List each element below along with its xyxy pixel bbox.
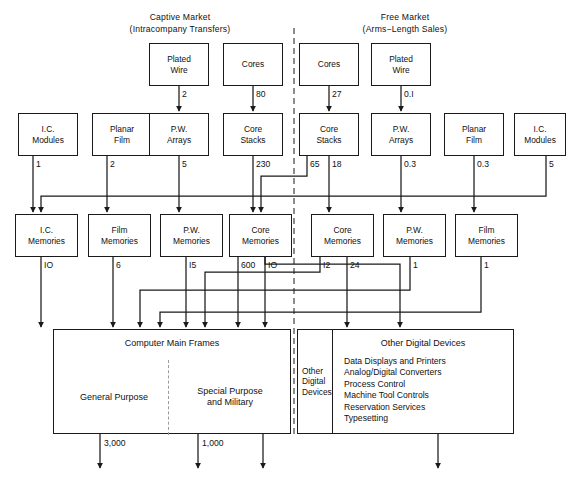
odd-item-0: Data Displays and Printers [344, 356, 446, 367]
odd-item-3: Machine Tool Controls [344, 390, 446, 401]
box-line-2: Arrays [389, 135, 413, 145]
odd-item-4: Reservation Services [344, 402, 446, 413]
box-line-2: Memories [28, 236, 65, 246]
odd-item-1: Analog/Digital Converters [344, 367, 446, 378]
flow-value-core-stacks-free-b: 18 [332, 160, 342, 169]
segment-line-1: General Purpose [60, 392, 168, 403]
box-line-3: Devices [302, 387, 332, 397]
box-cores-captive[interactable]: Cores [223, 43, 283, 86]
box-line-1: Planar [462, 124, 486, 134]
box-pw-memories-free[interactable]: P.W. Memories [383, 214, 446, 257]
flow-value-ic-modules-captive: 1 [36, 160, 41, 169]
free-market-subtitle: (Arms−Length Sales) [300, 24, 510, 36]
box-line-1: Core [320, 124, 338, 134]
box-line-2: Film [114, 135, 130, 145]
box-line-2: Wire [392, 65, 409, 75]
flow-value-film-memories-captive: 6 [116, 261, 121, 270]
box-cores-free[interactable]: Cores [299, 43, 359, 86]
box-ic-modules-captive[interactable]: I.C. Modules [18, 113, 78, 156]
flow-value-plated-wire-free: 0.I [404, 90, 414, 99]
box-line-2: Memories [173, 236, 210, 246]
box-line-1: P.W. [406, 225, 423, 235]
box-plated-wire-captive[interactable]: Plated Wire [149, 43, 209, 86]
other-digital-devices-title: Other Digital Devices [333, 338, 513, 348]
output-value-special-purpose: 1,000 [202, 439, 224, 448]
special-purpose-segment[interactable]: Special Purpose and Military [172, 386, 288, 408]
box-core-memories-captive[interactable]: Core Memories [229, 214, 292, 257]
flow-value-planar-film-captive: 2 [110, 160, 115, 169]
box-line-1: Plated [167, 54, 191, 64]
flow-value-film-memories-free: 1 [484, 261, 489, 270]
box-core-memories-free[interactable]: Core Memories [311, 214, 374, 257]
box-line-2: Modules [32, 135, 64, 145]
box-core-stacks-captive[interactable]: Core Stacks [223, 113, 283, 156]
box-line-2: Stacks [240, 135, 265, 145]
box-line-1: Core [244, 124, 262, 134]
flow-value-core-stacks-captive: 230 [256, 160, 270, 169]
box-planar-film-free[interactable]: Planar Film [444, 113, 504, 156]
box-line-1: Film [112, 225, 128, 235]
segment-line-1: Special Purpose [172, 386, 288, 397]
odd-item-5: Typesetting [344, 413, 446, 424]
free-market-header: Free Market (Arms−Length Sales) [300, 12, 510, 35]
flow-diagram: Captive Market (Intracompany Transfers) … [0, 0, 570, 481]
flow-value-pw-arrays-free: 0.3 [404, 160, 416, 169]
flow-value-core-memories-captive-a: 600 [241, 261, 255, 270]
box-core-stacks-free[interactable]: Core Stacks [299, 113, 359, 156]
box-line-2: Digital [302, 376, 325, 386]
box-line-2: Memories [324, 236, 361, 246]
box-line-2: Memories [396, 236, 433, 246]
flow-value-core-memories-free-a: I2 [323, 261, 330, 270]
flow-value-pw-memories-captive: I5 [189, 261, 196, 270]
box-line-1: Cores [318, 59, 340, 69]
box-line-1: Plated [389, 54, 413, 64]
computer-main-frames-title: Computer Main Frames [54, 338, 290, 348]
flow-value-ic-modules-free: 5 [549, 160, 554, 169]
general-purpose-segment[interactable]: General Purpose [60, 392, 168, 403]
box-line-2: Film [466, 135, 482, 145]
box-line-2: Memories [468, 236, 505, 246]
captive-market-header: Captive Market (Intracompany Transfers) [80, 12, 280, 35]
box-pw-arrays-free[interactable]: P.W. Arrays [371, 113, 431, 156]
box-line-1: I.C. [41, 124, 54, 134]
flow-value-plated-wire-captive: 2 [182, 90, 187, 99]
box-film-memories-free[interactable]: Film Memories [455, 214, 518, 257]
box-ic-memories-captive[interactable]: I.C. Memories [15, 214, 78, 257]
box-line-1: Planar [110, 124, 134, 134]
box-line-1: Other [302, 366, 323, 376]
box-pw-memories-captive[interactable]: P.W. Memories [160, 214, 223, 257]
mainframes-internal-divider [168, 360, 169, 435]
computer-main-frames-box[interactable]: Computer Main Frames General Purpose Spe… [53, 329, 291, 434]
box-planar-film-captive[interactable]: Planar Film [92, 113, 152, 156]
output-value-general-purpose: 3,000 [104, 439, 126, 448]
box-line-1: Cores [242, 59, 264, 69]
flow-value-planar-film-free: 0.3 [477, 160, 489, 169]
box-plated-wire-free[interactable]: Plated Wire [371, 43, 431, 86]
flow-value-pw-arrays-captive: 5 [182, 160, 187, 169]
box-line-1: I.C. [40, 225, 53, 235]
captive-market-subtitle: (Intracompany Transfers) [80, 24, 280, 36]
box-pw-arrays-captive[interactable]: P.W. Arrays [149, 113, 209, 156]
box-ic-modules-free[interactable]: I.C. Modules [514, 113, 566, 156]
flow-value-cores-free: 27 [332, 90, 342, 99]
flow-value-core-memories-free-b: 24 [350, 261, 360, 270]
free-market-title: Free Market [300, 12, 510, 24]
box-line-1: P.W. [183, 225, 200, 235]
box-line-1: Core [333, 225, 351, 235]
box-line-2: Wire [170, 65, 187, 75]
flow-value-cores-captive: 80 [256, 90, 266, 99]
flow-value-ic-memories-captive: IO [44, 261, 53, 270]
box-line-2: Memories [101, 236, 138, 246]
other-digital-devices-large-box[interactable]: Other Digital Devices Data Displays and … [332, 329, 514, 434]
flow-value-core-memories-captive-b: IO [268, 261, 277, 270]
flow-value-core-stacks-free-a: 65 [310, 160, 320, 169]
box-film-memories-captive[interactable]: Film Memories [88, 214, 151, 257]
box-line-2: Memories [242, 236, 279, 246]
box-line-2: Arrays [167, 135, 191, 145]
captive-market-title: Captive Market [80, 12, 280, 24]
box-line-1: I.C. [533, 124, 546, 134]
box-line-1: P.W. [393, 124, 410, 134]
box-line-2: Modules [524, 135, 556, 145]
box-line-1: Core [251, 225, 269, 235]
box-line-1: P.W. [171, 124, 188, 134]
